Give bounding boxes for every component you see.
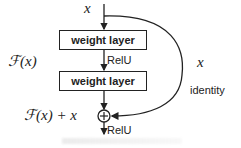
- output-label: ℱ(x) + x: [24, 106, 77, 124]
- identity-label: identity: [190, 84, 225, 96]
- residual-function-label: ℱ(x): [8, 52, 37, 70]
- faint-caption: [62, 138, 182, 144]
- residual-block-diagram: x weight layer RelU weight layer ℱ(x) ℱ(…: [0, 0, 241, 148]
- input-label: x: [84, 0, 91, 17]
- weight-layer-2: weight layer: [59, 71, 147, 91]
- weight-layer-1: weight layer: [59, 30, 147, 50]
- shortcut-label: x: [197, 54, 204, 71]
- weight-layer-1-label: weight layer: [71, 34, 135, 46]
- relu-label-2: RelU: [107, 124, 131, 136]
- relu-label-1: RelU: [107, 54, 131, 66]
- weight-layer-2-label: weight layer: [71, 75, 135, 87]
